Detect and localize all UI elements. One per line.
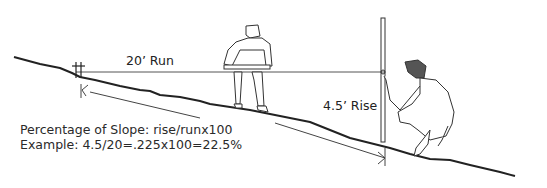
formula-line-1: Percentage of Slope: rise/runx100 [20, 122, 242, 137]
crouching-person-icon [384, 60, 454, 156]
slope-illustration [0, 0, 547, 188]
slope-formula: Percentage of Slope: rise/runx100 Exampl… [20, 122, 242, 152]
run-label: 20’ Run [126, 53, 174, 68]
slope-diagram: 20’ Run 4.5’ Rise Percentage of Slope: r… [0, 0, 547, 188]
standing-person-icon [224, 25, 272, 112]
rise-label: 4.5’ Rise [323, 98, 377, 113]
formula-line-2: Example: 4.5/20=.225x100=22.5% [20, 137, 242, 152]
measuring-pole-icon [381, 18, 385, 142]
